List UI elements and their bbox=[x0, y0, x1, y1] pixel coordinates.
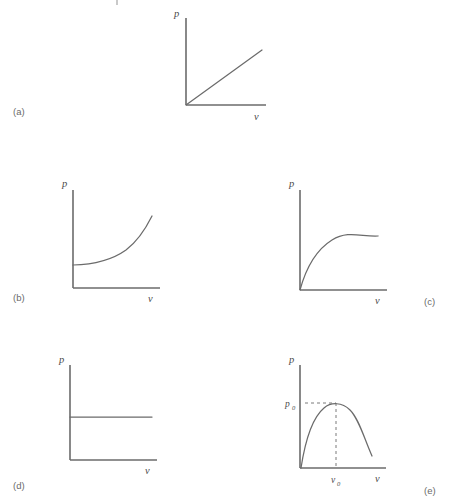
panel-c-x-axis-label: v bbox=[375, 295, 380, 306]
panel-a-x-axis-label: v bbox=[254, 111, 259, 122]
panel-a: p v (a) bbox=[13, 8, 266, 122]
panel-e: p v p 0 v 0 (e) bbox=[284, 354, 436, 496]
panel-d-y-axis-label: p bbox=[58, 354, 64, 365]
panel-e-v0-label: v bbox=[331, 475, 336, 485]
panel-b: p v (b) bbox=[13, 178, 160, 304]
panel-a-label: (a) bbox=[13, 106, 25, 117]
panel-e-label: (e) bbox=[424, 485, 436, 496]
figure-canvas: p v (a) p v (b) p v (c) p v (d) p v bbox=[0, 0, 451, 503]
panel-d-label: (d) bbox=[13, 480, 25, 491]
scan-artifact bbox=[116, 0, 118, 5]
panel-e-y-axis-label: p bbox=[288, 354, 294, 365]
panel-e-p0-label: p bbox=[284, 399, 290, 409]
panel-e-x-axis-label: v bbox=[375, 473, 380, 484]
panel-d-x-axis-label: v bbox=[145, 465, 150, 476]
panel-b-x-axis-label: v bbox=[148, 293, 153, 304]
panel-b-y-axis-label: p bbox=[61, 178, 67, 189]
panel-b-curve bbox=[73, 216, 152, 265]
panel-c: p v (c) bbox=[288, 178, 435, 307]
panel-e-p0-subscript: 0 bbox=[292, 404, 296, 411]
panel-c-label: (c) bbox=[424, 296, 435, 307]
physics-figure-panels: p v (a) p v (b) p v (c) p v (d) p v bbox=[0, 0, 451, 503]
panel-d: p v (d) bbox=[13, 354, 157, 491]
panel-c-curve bbox=[300, 235, 378, 290]
panel-a-curve bbox=[186, 50, 262, 105]
panel-c-y-axis-label: p bbox=[288, 178, 294, 189]
panel-e-v0-subscript: 0 bbox=[337, 480, 341, 487]
panel-a-y-axis-label: p bbox=[173, 8, 179, 19]
panel-b-label: (b) bbox=[13, 292, 25, 303]
